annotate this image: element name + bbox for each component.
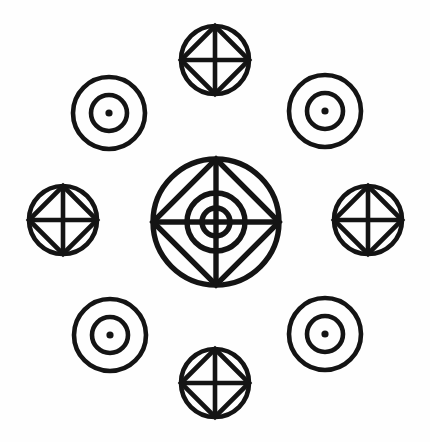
dot-top-right-center-dot-icon [321,107,328,114]
center-target-symbol [153,159,279,285]
dot-symbol-top-right [289,75,361,147]
wheel-symbol-right [334,186,402,254]
symbol-diagram [0,0,430,442]
wheel-symbol-top [181,26,249,94]
wheel-symbol-bottom [181,349,249,417]
wheel-symbol-left [29,186,97,254]
dot-bottom-right-center-dot-icon [321,330,328,337]
dot-bottom-left-center-dot-icon [106,331,113,338]
dot-symbol-bottom-left [74,299,146,371]
dot-top-left-center-dot-icon [105,109,112,116]
figure-canvas [0,0,430,442]
dot-symbol-top-left [73,77,145,149]
dot-symbol-bottom-right [289,298,361,370]
